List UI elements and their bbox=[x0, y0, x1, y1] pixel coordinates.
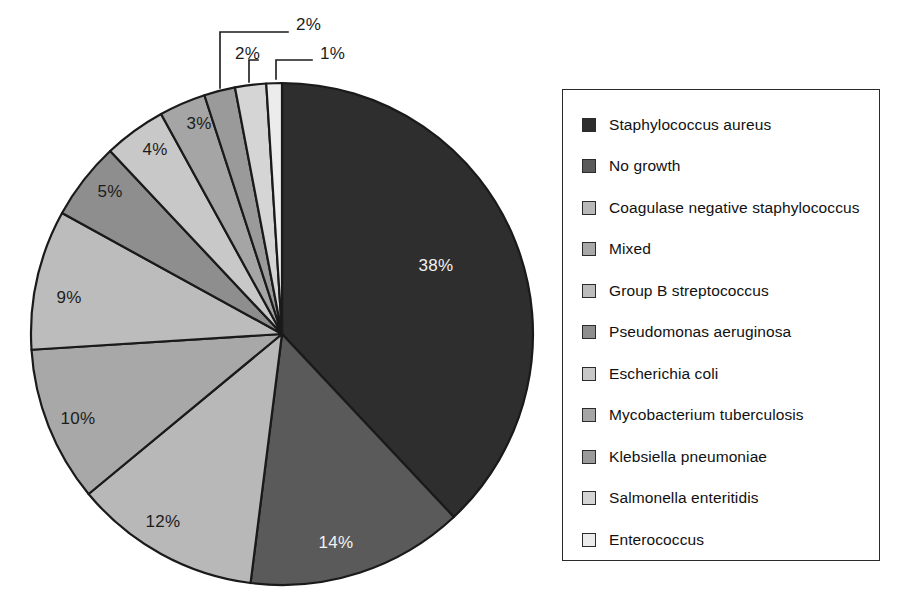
chart-legend: Staphylococcus aureusNo growthCoagulase … bbox=[562, 89, 880, 561]
legend-swatch-icon bbox=[582, 408, 596, 422]
callout-leader-line bbox=[249, 60, 258, 82]
legend-item[interactable]: Group B streptococcus bbox=[563, 270, 879, 312]
legend-item[interactable]: Salmonella enteritidis bbox=[563, 478, 879, 520]
legend-item[interactable]: Coagulase negative staphylococcus bbox=[563, 187, 879, 229]
legend-item-label: No growth bbox=[609, 157, 681, 175]
legend-item-label: Enterococcus bbox=[609, 531, 704, 549]
legend-item[interactable]: Enterococcus bbox=[563, 519, 879, 561]
pie-slice-value-label: 14% bbox=[319, 533, 354, 552]
legend-item-label: Pseudomonas aeruginosa bbox=[609, 323, 791, 341]
legend-swatch-icon bbox=[582, 367, 596, 381]
legend-swatch-icon bbox=[582, 325, 596, 339]
chart-page: 2%2%1% 38%14%12%10%9%5%4%3% Staphylococc… bbox=[0, 0, 909, 613]
legend-swatch-icon bbox=[582, 159, 596, 173]
legend-item[interactable]: No growth bbox=[563, 146, 879, 188]
legend-item[interactable]: Staphylococcus aureus bbox=[563, 104, 879, 146]
legend-item-label: Staphylococcus aureus bbox=[609, 116, 771, 134]
legend-item[interactable]: Pseudomonas aeruginosa bbox=[563, 312, 879, 354]
legend-swatch-icon bbox=[582, 118, 596, 132]
legend-swatch-icon bbox=[582, 242, 596, 256]
pie-slice-value-label: 4% bbox=[142, 140, 167, 159]
callout-value-label: 1% bbox=[320, 44, 345, 63]
legend-item[interactable]: Mycobacterium tuberculosis bbox=[563, 395, 879, 437]
pie-slices-group bbox=[31, 83, 533, 585]
pie-slice-value-label: 38% bbox=[419, 256, 454, 275]
legend-item[interactable]: Mixed bbox=[563, 229, 879, 271]
legend-item-label: Mixed bbox=[609, 240, 651, 258]
legend-swatch-icon bbox=[582, 491, 596, 505]
legend-item[interactable]: Klebsiella pneumoniae bbox=[563, 436, 879, 478]
legend-item-label: Salmonella enteritidis bbox=[609, 489, 759, 507]
callout-leader-line bbox=[276, 60, 312, 79]
legend-swatch-icon bbox=[582, 450, 596, 464]
pie-slice-value-label: 3% bbox=[186, 114, 211, 133]
pie-slice-value-label: 10% bbox=[61, 409, 96, 428]
legend-swatch-icon bbox=[582, 533, 596, 547]
pie-slice-value-label: 12% bbox=[146, 512, 181, 531]
pie-slice-value-label: 5% bbox=[97, 182, 122, 201]
legend-swatch-icon bbox=[582, 284, 596, 298]
legend-swatch-icon bbox=[582, 201, 596, 215]
legend-item-label: Mycobacterium tuberculosis bbox=[609, 406, 804, 424]
legend-item-label: Coagulase negative staphylococcus bbox=[609, 199, 860, 217]
callout-value-label: 2% bbox=[235, 44, 260, 63]
legend-item-label: Escherichia coli bbox=[609, 365, 718, 383]
legend-list: Staphylococcus aureusNo growthCoagulase … bbox=[563, 104, 879, 561]
legend-item[interactable]: Escherichia coli bbox=[563, 353, 879, 395]
pie-slice-value-label: 9% bbox=[56, 288, 81, 307]
pie-chart-area: 2%2%1% 38%14%12%10%9%5%4%3% bbox=[0, 0, 560, 613]
pie-callouts-group: 2%2%1% bbox=[220, 15, 345, 88]
legend-item-label: Group B streptococcus bbox=[609, 282, 769, 300]
legend-item-label: Klebsiella pneumoniae bbox=[609, 448, 767, 466]
pie-chart-svg: 2%2%1% 38%14%12%10%9%5%4%3% bbox=[0, 0, 560, 613]
callout-value-label: 2% bbox=[296, 15, 321, 34]
